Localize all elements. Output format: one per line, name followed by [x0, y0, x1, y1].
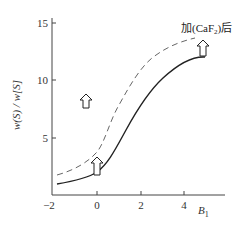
series-before-solid: [57, 57, 205, 184]
x-ticks: −2 0 2 4: [43, 191, 187, 211]
x-tick-0: 0: [94, 199, 100, 211]
x-tick-2: 2: [138, 199, 144, 211]
series-after-caf2-dashed: [57, 38, 195, 175]
chart: 15 10 5 −2 0 2 4 w(S) / w[S] B1 加(CaF2)后: [0, 0, 248, 229]
up-arrow-icon: [80, 94, 92, 108]
x-tick-neg2: −2: [43, 199, 55, 211]
y-axis-label: w(S) / w[S]: [10, 80, 23, 130]
y-ticks: 15 10 5: [37, 17, 56, 144]
y-tick-15: 15: [37, 17, 49, 29]
up-arrow-icon: [197, 40, 209, 56]
y-tick-5: 5: [43, 132, 49, 144]
caf2-annotation: 加(CaF2)后: [181, 22, 232, 36]
x-tick-4: 4: [181, 199, 187, 211]
up-arrow-icon: [91, 157, 103, 175]
y-tick-10: 10: [37, 74, 49, 86]
x-axis-label: B1: [198, 204, 209, 219]
